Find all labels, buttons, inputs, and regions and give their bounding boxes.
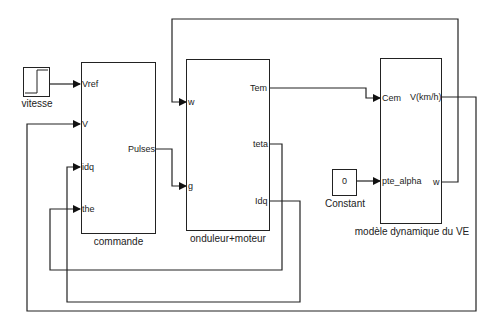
wire-tem-cem[interactable] [270,88,380,98]
port-pte-alpha: pte_alpha [382,176,422,186]
port-w-out: w [433,177,440,187]
port-v: V [82,119,88,129]
commande-caption: commande [81,236,156,247]
port-idq: idq [82,162,94,172]
vitesse-block[interactable] [23,67,50,97]
port-teta: teta [253,139,268,149]
wire-pulses-g[interactable] [156,149,186,186]
vitesse-caption: vitesse [18,98,56,109]
port-the: the [82,204,95,214]
port-v-kmh: V(km/h) [410,92,442,102]
port-g: g [188,181,193,191]
port-idq-out: Idq [255,196,268,206]
port-cem: Cem [382,93,401,103]
port-vref: Vref [82,79,98,89]
port-pulses: Pulses [128,144,155,154]
port-w-in: w [188,97,195,107]
modele-block[interactable] [380,58,442,224]
constant-caption: Constant [322,198,368,209]
constant-value: 0 [342,176,347,186]
modele-caption: modèle dynamique du VE [350,226,474,237]
onduleur-caption: onduleur+moteur [180,233,276,244]
port-tem: Tem [250,83,267,93]
